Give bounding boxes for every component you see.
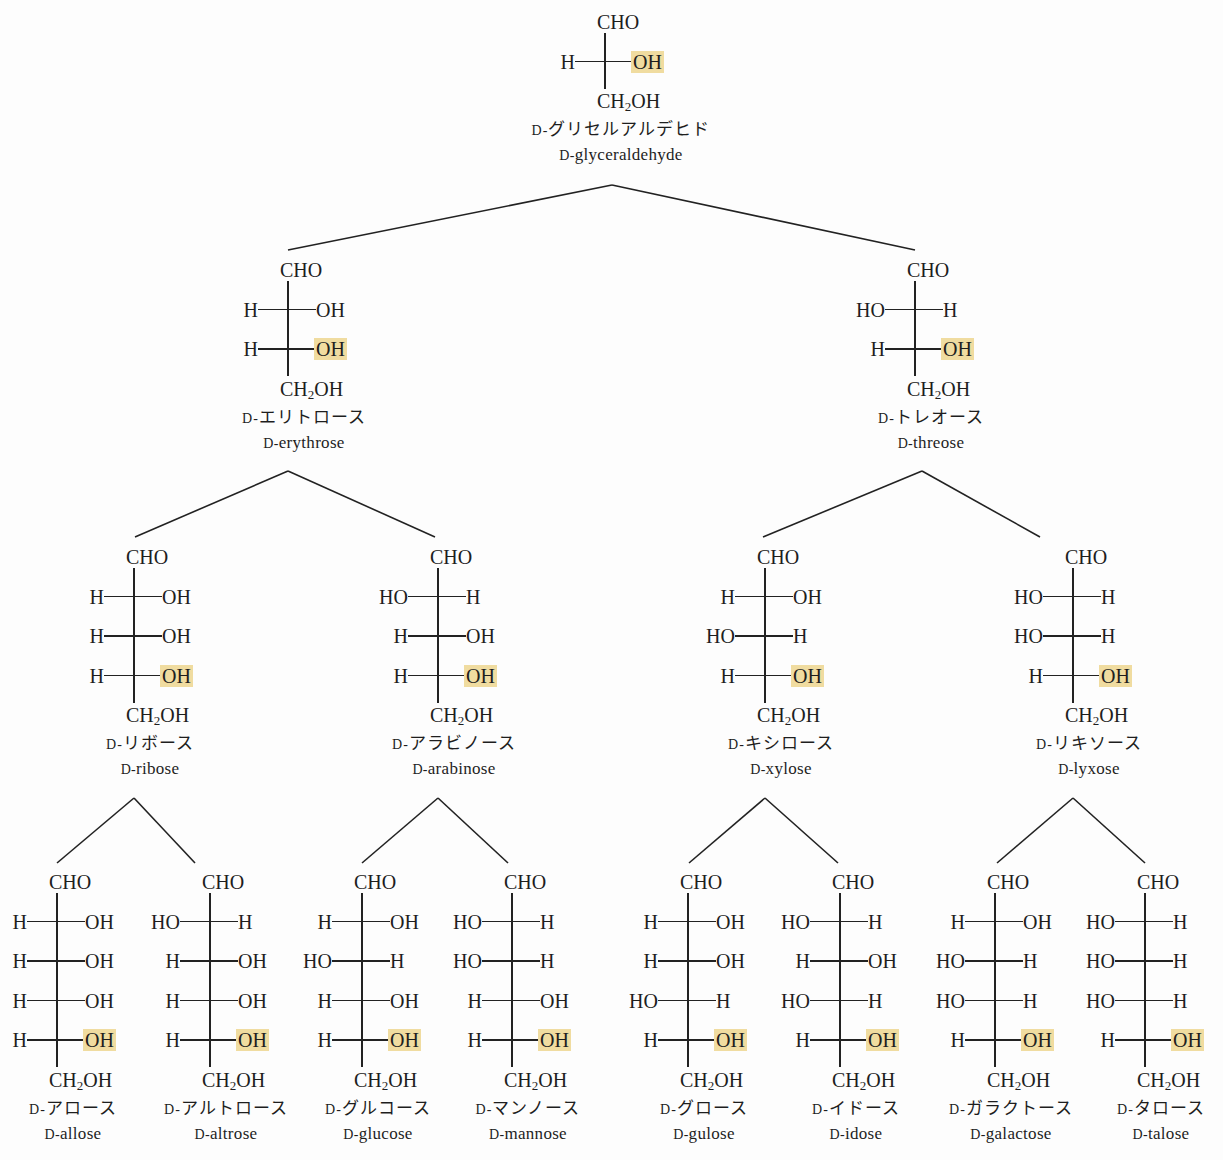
japanese-name-text: トレオース xyxy=(895,408,984,427)
hydroxymethyl-group-label: CH2OH xyxy=(280,378,343,400)
compound-name-japanese: D-タロース xyxy=(1117,1099,1205,1120)
d-prefix: D- xyxy=(559,148,574,163)
subscript-2: 2 xyxy=(860,1078,867,1093)
compound-name-japanese: D-ガラクトース xyxy=(949,1099,1073,1120)
right-substituent-3: OH xyxy=(464,665,497,687)
right-substituent-1: H xyxy=(238,911,252,933)
left-substituent-1: HO xyxy=(453,911,482,933)
english-name-text: altrose xyxy=(210,1124,257,1143)
horizontal-bond-line xyxy=(810,921,868,923)
right-substituent-2: H xyxy=(540,950,554,972)
hydroxymethyl-group-label: CH2OH xyxy=(1137,1069,1200,1091)
compound-name-japanese: D-アルトロース xyxy=(164,1099,288,1120)
connector-xylose-to-gulose xyxy=(689,798,765,863)
carbon-backbone-line xyxy=(209,893,211,1067)
left-substituent-2: HO xyxy=(303,950,332,972)
compound-name-japanese: D-エリトロース xyxy=(242,408,366,429)
left-substituent-1: H xyxy=(721,586,735,608)
subscript-2: 2 xyxy=(785,713,792,728)
d-prefix: D- xyxy=(898,436,913,451)
d-prefix: D- xyxy=(878,411,895,426)
right-substituent-4: OH xyxy=(714,1029,747,1051)
d-prefix: D- xyxy=(476,1102,493,1117)
left-substituent-3: H xyxy=(90,665,104,687)
left-substituent-4: H xyxy=(318,1029,332,1051)
right-substituent-4: OH xyxy=(236,1029,269,1051)
left-substituent-3: H xyxy=(318,990,332,1012)
hydroxymethyl-group-label: CH2OH xyxy=(49,1069,112,1091)
horizontal-bond-line xyxy=(180,1039,238,1041)
left-substituent-2: H xyxy=(644,950,658,972)
right-substituent-3: OH xyxy=(238,990,267,1012)
d-prefix: D- xyxy=(532,123,549,138)
left-substituent-1: H xyxy=(644,911,658,933)
left-substituent-3: H xyxy=(468,990,482,1012)
carbon-backbone-line xyxy=(56,893,58,1067)
carbon-backbone-line xyxy=(511,893,513,1067)
connector-ribose-to-altrose xyxy=(134,798,195,863)
english-name-text: talose xyxy=(1148,1124,1189,1143)
left-substituent-3: H xyxy=(1029,665,1043,687)
hydroxymethyl-group-label: CH2OH xyxy=(504,1069,567,1091)
d-prefix: D- xyxy=(121,762,136,777)
highlighted-hydroxyl-group: OH xyxy=(631,51,664,73)
horizontal-bond-line xyxy=(735,675,793,677)
horizontal-bond-line xyxy=(258,348,316,350)
left-substituent-2: H xyxy=(871,338,885,360)
right-substituent-3: H xyxy=(716,990,730,1012)
right-substituent-1: H xyxy=(868,911,882,933)
left-substituent-4: H xyxy=(13,1029,27,1051)
hydroxymethyl-group-label: CH2OH xyxy=(680,1069,743,1091)
hydroxymethyl-group-label: CH2OH xyxy=(430,704,493,726)
carbon-backbone-line xyxy=(687,893,689,1067)
left-substituent-3: H xyxy=(394,665,408,687)
compound-name-japanese: D-アロース xyxy=(29,1099,117,1120)
right-substituent-4: OH xyxy=(538,1029,571,1051)
horizontal-bond-line xyxy=(258,309,316,311)
compound-name-japanese: D-キシロース xyxy=(728,734,834,755)
right-substituent-1: OH xyxy=(316,299,345,321)
english-name-text: arabinose xyxy=(428,759,496,778)
d-prefix: D- xyxy=(263,436,278,451)
horizontal-bond-line xyxy=(965,1000,1023,1002)
left-substituent-4: H xyxy=(951,1029,965,1051)
d-prefix: D- xyxy=(1036,737,1053,752)
left-substituent-1: H xyxy=(951,911,965,933)
right-substituent-2: H xyxy=(1173,950,1187,972)
aldehyde-group-label: CHO xyxy=(1137,871,1179,893)
left-substituent-1: HO xyxy=(379,586,408,608)
aldehyde-group-label: CHO xyxy=(280,259,322,281)
english-name-text: mannose xyxy=(504,1124,567,1143)
compound-name-english: D-ribose xyxy=(121,759,180,780)
carbon-backbone-line xyxy=(914,281,916,376)
aldehyde-group-label: CHO xyxy=(680,871,722,893)
horizontal-bond-line xyxy=(1115,1000,1173,1002)
right-substituent-3: OH xyxy=(160,665,193,687)
horizontal-bond-line xyxy=(408,635,466,637)
d-prefix: D- xyxy=(970,1127,985,1142)
left-substituent-1: HO xyxy=(151,911,180,933)
right-substituent-2: OH xyxy=(162,625,191,647)
right-substituent-2: OH xyxy=(314,338,347,360)
right-substituent-1: H xyxy=(943,299,957,321)
horizontal-bond-line xyxy=(965,960,1023,962)
left-substituent-2: HO xyxy=(706,625,735,647)
subscript-2: 2 xyxy=(382,1078,389,1093)
aldehyde-group-label: CHO xyxy=(832,871,874,893)
compound-name-english: D-arabinose xyxy=(412,759,495,780)
d-prefix: D- xyxy=(242,411,259,426)
horizontal-bond-line xyxy=(27,1000,85,1002)
compound-name-japanese: D-マンノース xyxy=(476,1099,581,1120)
right-substituent-2: OH xyxy=(85,950,114,972)
highlighted-hydroxyl-group: OH xyxy=(866,1029,899,1051)
highlighted-hydroxyl-group: OH xyxy=(314,338,347,360)
japanese-name-text: エリトロース xyxy=(259,408,366,427)
compound-name-japanese: D-トレオース xyxy=(878,408,984,429)
right-substituent-2: OH xyxy=(716,950,745,972)
d-prefix: D- xyxy=(830,1127,845,1142)
highlighted-hydroxyl-group: OH xyxy=(714,1029,747,1051)
d-prefix: D- xyxy=(195,1127,210,1142)
right-substituent-1: OH xyxy=(716,911,745,933)
horizontal-bond-line xyxy=(332,960,390,962)
subscript-2: 2 xyxy=(1093,713,1100,728)
